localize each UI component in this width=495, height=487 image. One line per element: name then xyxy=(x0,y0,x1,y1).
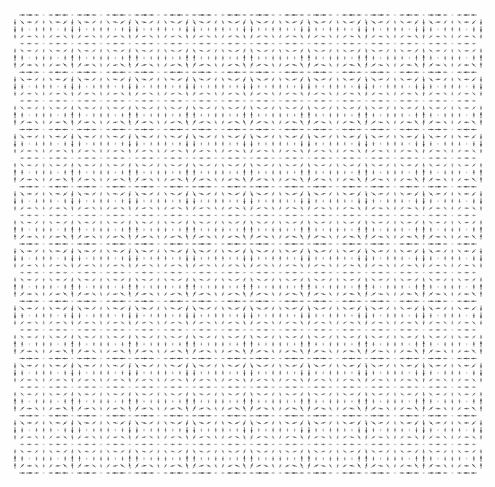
figure-root: Dense quiver plot showing a periodic vec… xyxy=(0,0,495,487)
quiver-field-canvas xyxy=(0,0,495,487)
quiver-plot-area xyxy=(0,0,495,487)
